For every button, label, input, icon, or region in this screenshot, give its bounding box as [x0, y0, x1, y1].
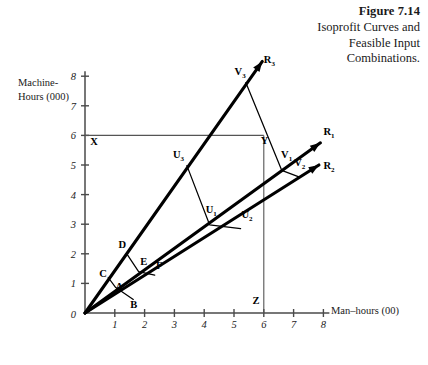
point-label-Z: Z: [252, 295, 259, 306]
point-label-U2: U2: [241, 209, 253, 223]
x-axis-tick-label: 2: [142, 319, 148, 330]
point-label-Y: Y: [261, 135, 269, 146]
origin-label: 0: [71, 309, 77, 320]
y-axis-tick-label: 3: [70, 219, 76, 230]
y-axis-tick-label: 4: [71, 190, 77, 201]
constraint-lines-group: [85, 135, 264, 313]
y-axis-tick-label: 2: [71, 249, 77, 260]
point-label-U1: U1: [206, 204, 218, 218]
x-axis-title: Man–hours (00): [331, 305, 399, 316]
ray-R₃: [85, 61, 262, 313]
point-label-U3: U3: [173, 149, 185, 163]
x-axis-tick-label: 6: [261, 319, 267, 330]
point-label-V3: V3: [235, 66, 247, 80]
y-axis-tick-label: 1: [71, 278, 76, 289]
rays-group: [85, 61, 320, 313]
labels-group: YXZR3R1R2CABDEFU3U1U2V3V1V2: [90, 54, 335, 310]
point-label-X: X: [90, 136, 98, 147]
y-axis-title-line-2: Hours (000): [18, 90, 88, 104]
y-axis-title: Machine- Hours (000): [18, 76, 88, 103]
ray-label-R₁: R1: [323, 126, 335, 140]
isoprofit-curves-group: [108, 83, 300, 300]
ray-label-R₃: R3: [264, 54, 276, 68]
point-label-V1: V1: [281, 149, 293, 163]
x-axis-tick-label: 4: [202, 319, 208, 330]
y-axis-tick-label: 5: [71, 160, 76, 171]
point-label-V2: V2: [294, 157, 306, 171]
x-axis-tick-label: 3: [171, 319, 177, 330]
point-label-E: E: [140, 256, 147, 267]
y-axis-title-line-1: Machine-: [18, 76, 88, 90]
axes-group: 12345678123456780: [70, 71, 330, 330]
x-axis-tick-label: 5: [231, 319, 236, 330]
point-label-F: F: [156, 260, 162, 271]
point-label-D: D: [118, 239, 126, 250]
point-label-C: C: [99, 268, 107, 279]
figure-root: Figure 7.14 Isoprofit Curves and Feasibl…: [0, 0, 428, 365]
ray-label-R₂: R2: [323, 160, 335, 174]
x-axis-tick-label: 8: [321, 319, 327, 330]
point-label-A: A: [115, 281, 123, 292]
y-axis-tick-label: 6: [71, 130, 77, 141]
point-label-B: B: [130, 299, 137, 310]
x-axis-tick-label: 7: [291, 319, 297, 330]
x-axis-tick-label: 1: [112, 319, 117, 330]
